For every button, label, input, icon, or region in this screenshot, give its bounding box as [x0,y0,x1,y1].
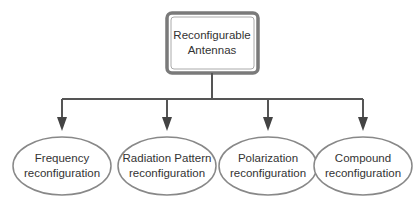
child-node-label: Polarizationreconfiguration [230,151,306,181]
root-label-line2: Antennas [173,43,250,58]
root-label-line1: Reconfigurable [173,28,250,43]
child-label-line2: reconfiguration [325,166,401,181]
arrow-down-icon [358,117,368,131]
child-label-line2: reconfiguration [24,166,100,181]
child-node-label: Radiation Patternreconfiguration [123,151,212,181]
child-label-line1: Radiation Pattern [123,151,212,166]
child-label-line1: Compound [325,151,401,166]
child-label-line2: reconfiguration [230,166,306,181]
root-label: Reconfigurable Antennas [173,28,250,58]
child-node-label: Frequencyreconfiguration [24,151,100,181]
child-node-label: Compoundreconfiguration [325,151,401,181]
arrow-down-icon [57,117,67,131]
child-label-line1: Frequency [24,151,100,166]
arrow-down-icon [263,117,273,131]
child-label-line1: Polarization [230,151,306,166]
child-label-line2: reconfiguration [123,166,212,181]
arrow-down-icon [162,117,172,131]
